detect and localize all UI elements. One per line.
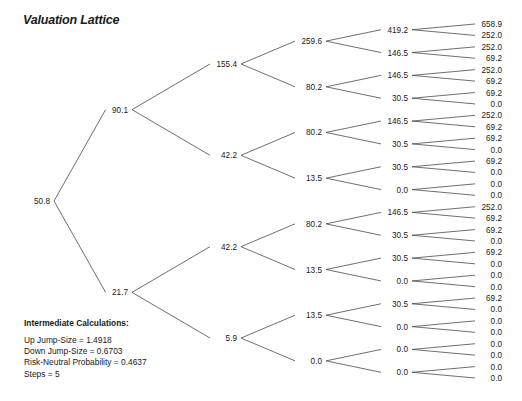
- lattice-edge: [241, 224, 295, 247]
- lattice-edge: [326, 30, 381, 41]
- lattice-node-value: 30.5: [392, 254, 408, 263]
- lattice-node-value: 30.5: [392, 140, 408, 149]
- lattice-edge: [412, 367, 475, 373]
- lattice-node-value: 146.5: [388, 71, 409, 80]
- lattice-edge: [412, 212, 475, 218]
- lattice-edge: [326, 212, 381, 223]
- lattice-node-value: 259.6: [302, 37, 323, 46]
- lattice-edge: [412, 281, 475, 287]
- lattice-node-value: 13.5: [306, 266, 322, 275]
- lattice-node-value: 419.2: [388, 26, 409, 35]
- lattice-edge: [241, 315, 295, 338]
- lattice-edge: [412, 235, 475, 241]
- lattice-edge: [326, 361, 381, 372]
- lattice-node-value: 30.5: [392, 94, 408, 103]
- lattice-edge: [412, 327, 475, 333]
- lattice-node-value: 0.0: [491, 168, 503, 177]
- lattice-node-value: 50.8: [34, 197, 50, 206]
- lattice-edge: [132, 110, 210, 156]
- lattice-edge: [326, 304, 381, 315]
- lattice-node-value: 146.5: [388, 208, 409, 217]
- lattice-node-value: 80.2: [306, 220, 322, 229]
- lattice-node-value: 252.0: [482, 31, 503, 40]
- lattice-node-value: 69.2: [486, 89, 502, 98]
- lattice-edge: [326, 87, 381, 98]
- lattice-edge: [412, 98, 475, 104]
- lattice-node-value: 0.0: [491, 363, 503, 372]
- lattice-node-value: 146.5: [388, 49, 409, 58]
- lattice-edge: [412, 30, 475, 36]
- lattice-edge: [326, 75, 381, 86]
- lattice-edge: [326, 349, 381, 360]
- lattice-edge: [412, 304, 475, 310]
- lattice-node-value: 252.0: [482, 43, 503, 52]
- intermediate-calculations-box: Intermediate Calculations: Up Jump-Size …: [24, 318, 234, 380]
- valuation-lattice-figure: Valuation Lattice 50.890.121.7155.442.24…: [0, 0, 522, 401]
- lattice-edge: [412, 138, 475, 144]
- lattice-edge: [326, 132, 381, 143]
- lattice-edge: [412, 70, 475, 76]
- lattice-edge: [412, 75, 475, 81]
- lattice-node-value: 69.2: [486, 294, 502, 303]
- lattice-node-value: 80.2: [306, 128, 322, 137]
- lattice-node-value: 69.2: [486, 134, 502, 143]
- lattice-node-value: 0.0: [397, 323, 409, 332]
- lattice-edge: [412, 190, 475, 196]
- lattice-node-value: 155.4: [217, 60, 238, 69]
- lattice-edge: [326, 167, 381, 178]
- lattice-edge: [326, 315, 381, 326]
- lattice-edge: [412, 93, 475, 99]
- lattice-edge: [412, 53, 475, 59]
- lattice-edge: [412, 275, 475, 281]
- lattice-node-value: 13.5: [306, 311, 322, 320]
- lattice-edge: [412, 184, 475, 190]
- lattice-edge: [412, 321, 475, 327]
- lattice-edge: [132, 247, 210, 293]
- lattice-edge: [241, 132, 295, 155]
- lattice-edge: [241, 247, 295, 270]
- lattice-node-value: 69.2: [486, 77, 502, 86]
- lattice-node-value: 0.0: [491, 317, 503, 326]
- lattice-node-value: 0.0: [491, 351, 503, 360]
- lattice-edge: [326, 178, 381, 189]
- lattice-edge: [412, 167, 475, 173]
- lattice-node-value: 42.2: [221, 151, 237, 160]
- lattice-edge: [54, 110, 106, 201]
- lattice-node-value: 30.5: [392, 231, 408, 240]
- lattice-node-value: 252.0: [482, 111, 503, 120]
- lattice-edge: [412, 344, 475, 350]
- lattice-node-value: 69.2: [486, 214, 502, 223]
- lattice-edge: [241, 64, 295, 87]
- lattice-node-value: 30.5: [392, 300, 408, 309]
- lattice-node-value: 69.2: [486, 157, 502, 166]
- lattice-edge: [412, 298, 475, 304]
- lattice-node-value: 0.0: [491, 237, 503, 246]
- lattice-node-value: 30.5: [392, 163, 408, 172]
- calculation-line: Down Jump-Size = 0.6703: [24, 346, 234, 357]
- calculation-line: Risk-Neutral Probability = 0.4637: [24, 357, 234, 368]
- lattice-node-value: 658.9: [482, 20, 503, 29]
- lattice-node-value: 69.2: [486, 123, 502, 132]
- lattice-edge: [412, 47, 475, 53]
- lattice-edge: [54, 201, 106, 292]
- lattice-edge: [412, 252, 475, 258]
- calculation-line: Steps = 5: [24, 369, 234, 380]
- lattice-edge: [326, 121, 381, 132]
- lattice-edge: [241, 338, 295, 361]
- lattice-node-value: 0.0: [491, 283, 503, 292]
- lattice-edge: [326, 41, 381, 52]
- lattice-edge: [412, 349, 475, 355]
- lattice-node-value: 0.0: [491, 100, 503, 109]
- lattice-node-value: 0.0: [397, 277, 409, 286]
- lattice-edge: [412, 230, 475, 236]
- lattice-edge: [132, 64, 210, 110]
- lattice-node-value: 42.2: [221, 243, 237, 252]
- lattice-node-value: 0.0: [491, 305, 503, 314]
- lattice-node-value: 21.7: [112, 288, 128, 297]
- lattice-edge: [412, 121, 475, 127]
- lattice-node-value: 0.0: [491, 271, 503, 280]
- lattice-node-value: 0.0: [397, 345, 409, 354]
- lattice-node-value: 0.0: [491, 260, 503, 269]
- calculation-line: Up Jump-Size = 1.4918: [24, 335, 234, 346]
- lattice-node-value: 13.5: [306, 174, 322, 183]
